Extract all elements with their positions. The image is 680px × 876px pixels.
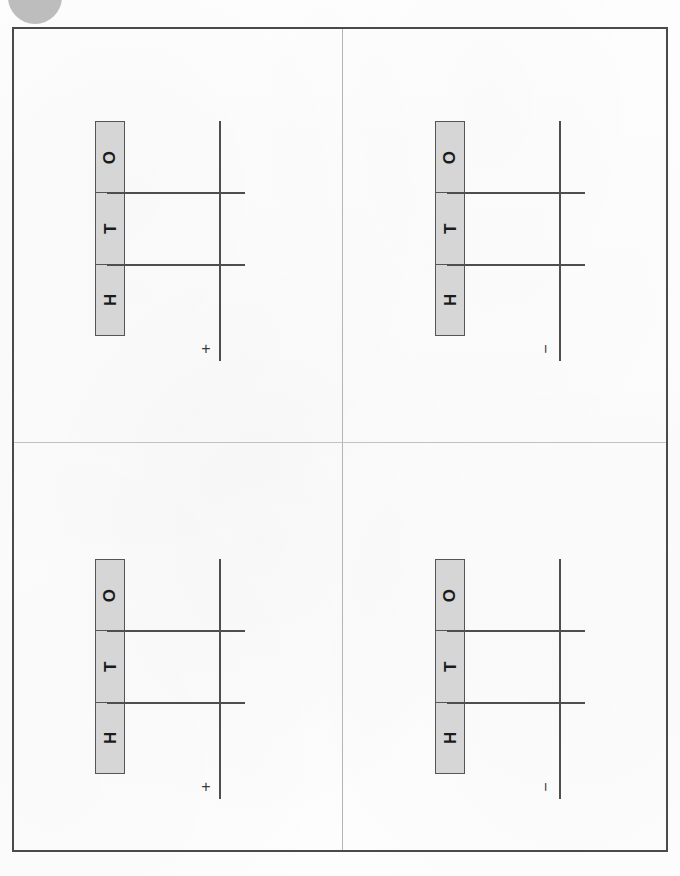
operator-glyph: + [201, 779, 210, 795]
place-value-figure: O T H + [95, 121, 275, 361]
place-value-figure: O T H + [95, 559, 275, 799]
column-header-cell-ones: O [96, 560, 124, 631]
column-header-label: H [102, 731, 119, 744]
column-header-label: T [101, 661, 118, 672]
quadrant-top-right: O T H − [340, 0, 680, 438]
row-rule-line-upper [107, 630, 245, 632]
column-header-cell-tens: T [436, 631, 464, 702]
operator-glyph: − [538, 782, 554, 791]
column-header-cell-ones: O [436, 560, 464, 631]
column-rule-line [219, 559, 221, 799]
column-header-cell-ones: O [96, 122, 124, 193]
column-header-label: T [101, 223, 118, 234]
column-rule-line [559, 559, 561, 799]
row-rule-line-upper [107, 192, 245, 194]
column-header-label: O [101, 150, 118, 164]
column-header-stack: O T H [95, 121, 125, 336]
column-header-label: H [102, 293, 119, 306]
column-header-label: H [442, 293, 459, 306]
column-header-stack: O T H [435, 121, 465, 336]
column-header-cell-hundreds: H [96, 703, 124, 773]
column-header-cell-tens: T [436, 193, 464, 264]
column-header-stack: O T H [95, 559, 125, 774]
quadrant-bottom-left: O T H + [0, 438, 340, 876]
operator-glyph: + [201, 341, 210, 357]
operator-sign: − [538, 777, 554, 797]
quadrant-bottom-right: O T H − [340, 438, 680, 876]
column-rule-line [559, 121, 561, 361]
column-header-stack: O T H [435, 559, 465, 774]
column-header-label: O [101, 588, 118, 602]
column-header-label: O [441, 150, 458, 164]
column-header-cell-tens: T [96, 631, 124, 702]
quadrant-top-left: O T H + [0, 0, 340, 438]
operator-glyph: − [538, 344, 554, 353]
operator-sign: − [538, 339, 554, 359]
column-header-label: T [441, 223, 458, 234]
row-rule-line-lower [107, 264, 245, 266]
column-header-label: O [441, 588, 458, 602]
row-rule-line-lower [447, 264, 585, 266]
column-header-cell-hundreds: H [436, 265, 464, 335]
row-rule-line-upper [447, 192, 585, 194]
row-rule-line-lower [447, 702, 585, 704]
place-value-figure: O T H − [435, 559, 615, 799]
column-header-cell-hundreds: H [436, 703, 464, 773]
column-header-cell-hundreds: H [96, 265, 124, 335]
column-rule-line [219, 121, 221, 361]
column-header-cell-ones: O [436, 122, 464, 193]
operator-sign: + [198, 777, 214, 797]
operator-sign: + [198, 339, 214, 359]
column-header-label: T [441, 661, 458, 672]
row-rule-line-lower [107, 702, 245, 704]
row-rule-line-upper [447, 630, 585, 632]
column-header-cell-tens: T [96, 193, 124, 264]
scanned-worksheet-page: O T H + O [0, 0, 680, 876]
column-header-label: H [442, 731, 459, 744]
place-value-figure: O T H − [435, 121, 615, 361]
